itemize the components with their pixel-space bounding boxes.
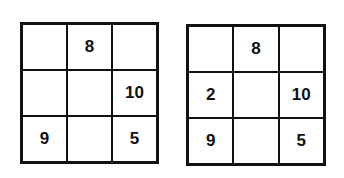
grid-1-cell-r3c2 — [67, 116, 112, 162]
grid-1-cell-r1c1 — [22, 24, 67, 70]
grid-1-cell-r2c3: 10 — [112, 70, 157, 116]
grid-2-cell-r2c3: 10 — [279, 72, 324, 118]
grid-1-cell-r3c3: 5 — [112, 116, 157, 162]
grid-1: 8 10 9 5 — [20, 22, 159, 164]
grid-2-cell-r2c1: 2 — [188, 72, 233, 118]
grid-2-cell-r1c2: 8 — [233, 26, 278, 72]
grid-2-cell-r3c1: 9 — [188, 118, 233, 164]
grid-2-cell-r1c1 — [188, 26, 233, 72]
grid-2-cell-r3c2 — [233, 118, 278, 164]
grid-1-cell-r3c1: 9 — [22, 116, 67, 162]
grid-2-cell-r2c2 — [233, 72, 278, 118]
grid-2: 8 2 10 9 5 — [186, 24, 326, 166]
grid-1-cell-r1c2: 8 — [67, 24, 112, 70]
grid-1-cell-r2c1 — [22, 70, 67, 116]
grid-2-cell-r1c3 — [279, 26, 324, 72]
grid-1-cell-r2c2 — [67, 70, 112, 116]
grid-2-cell-r3c3: 5 — [279, 118, 324, 164]
grid-1-cell-r1c3 — [112, 24, 157, 70]
